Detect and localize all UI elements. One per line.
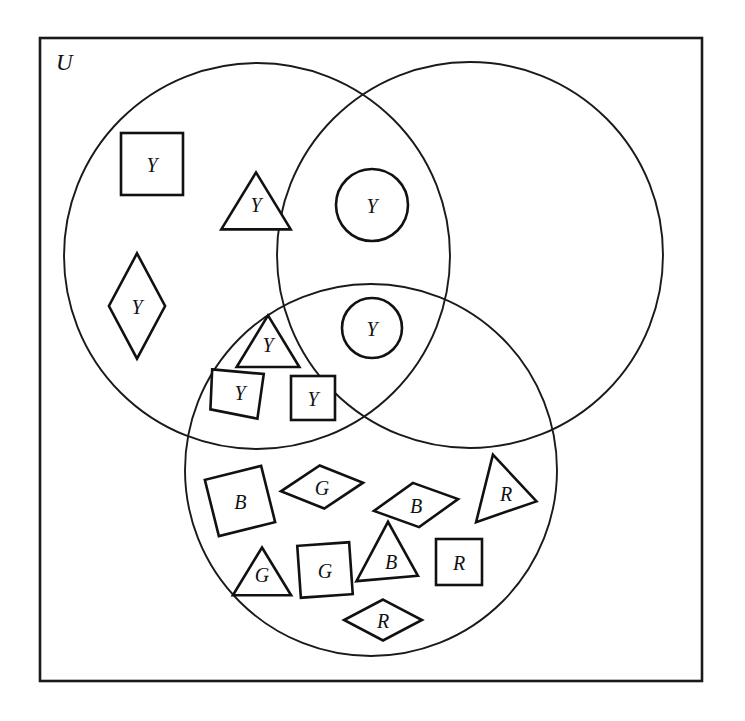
shape-item: Y — [210, 369, 263, 418]
universal-set-label: U — [56, 50, 74, 75]
shape-label-b: B — [234, 491, 246, 513]
shape-label-y: Y — [307, 388, 320, 410]
shape-label-g: G — [315, 477, 330, 499]
element-shapes-group: YYYYYYYYBGBRGGBRR — [109, 133, 545, 640]
shape-item: G — [279, 461, 366, 513]
shape-label-g: G — [255, 564, 270, 586]
shape-label-y: Y — [262, 334, 275, 356]
shape-item: Y — [109, 253, 165, 358]
shape-item: G — [233, 547, 291, 595]
shape-label-y: Y — [366, 195, 379, 217]
shape-label-r: R — [376, 610, 389, 632]
shape-item: G — [297, 542, 353, 598]
shape-label-g: G — [318, 560, 333, 582]
shape-item: Y — [291, 376, 335, 420]
shape-item: Y — [336, 169, 408, 241]
shape-item: R — [476, 455, 545, 536]
shape-item: R — [436, 539, 482, 585]
shape-item: B — [205, 466, 275, 536]
shape-label-y: Y — [131, 296, 144, 318]
shape-label-y: Y — [250, 194, 263, 216]
shape-label-b: B — [385, 551, 397, 573]
shape-label-y: Y — [234, 382, 247, 404]
shape-item: Y — [342, 298, 402, 358]
shape-label-r: R — [499, 483, 512, 505]
shape-label-y: Y — [146, 154, 159, 176]
venn-diagram-figure: U YYYYYYYYBGBRGGBRR — [0, 0, 745, 721]
shape-label-r: R — [452, 552, 465, 574]
shape-item: B — [356, 522, 433, 606]
shape-item: Y — [121, 133, 183, 195]
shape-item: B — [371, 477, 461, 533]
shape-item: R — [344, 600, 422, 641]
shape-label-b: B — [410, 495, 422, 517]
shape-label-y: Y — [366, 318, 379, 340]
venn-diagram-canvas: U YYYYYYYYBGBRGGBRR — [0, 0, 745, 721]
shape-item: Y — [221, 172, 290, 229]
